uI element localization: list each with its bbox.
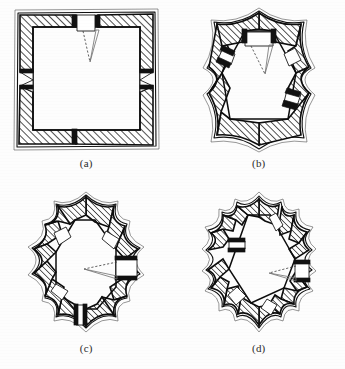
jamb-block-west-upper-d bbox=[228, 238, 245, 242]
figure-caption-a: (a) bbox=[80, 158, 93, 169]
gate-void-east-d bbox=[295, 263, 309, 279]
figure-panel-b: (b) bbox=[173, 0, 345, 185]
courtyard-outline-a bbox=[33, 27, 140, 130]
wall-mass-south-west-b bbox=[217, 112, 259, 145]
jamb-block-top-right-b bbox=[271, 29, 276, 43]
wall-mass-top-left-a bbox=[20, 15, 76, 72]
figure-panel-d: (d) bbox=[173, 185, 345, 369]
jamb-block-right-lower-a bbox=[140, 85, 153, 89]
jamb-block-top-left-b bbox=[242, 29, 247, 43]
jamb-block-left-upper-a bbox=[20, 69, 33, 73]
figure-caption-d: (d) bbox=[252, 343, 265, 354]
gate-void-top-a bbox=[77, 15, 95, 31]
plan-svg-d bbox=[183, 187, 335, 339]
figure-panel-c: (c) bbox=[0, 185, 173, 369]
figure-panel-a: (a) bbox=[0, 0, 173, 185]
sight-line-solid-a bbox=[90, 30, 99, 62]
sight-line-dashed-d bbox=[269, 266, 296, 273]
plan-drawing-c bbox=[0, 185, 173, 341]
sight-line-dashed-b bbox=[251, 46, 265, 74]
jamb-block-bottom-a bbox=[72, 129, 77, 144]
gate-void-east-c bbox=[116, 259, 137, 277]
jamb-block-left-lower-a bbox=[20, 85, 33, 89]
jamb-block-right-upper-a bbox=[140, 69, 153, 73]
jamb-block-top-right-a bbox=[95, 15, 100, 27]
plan-svg-c bbox=[10, 187, 162, 339]
figure-caption-c: (c) bbox=[80, 343, 93, 354]
figure-plate: (a) bbox=[0, 0, 345, 369]
wall-mass-left-lower-a bbox=[19, 86, 76, 144]
wall-mass-top-right-a bbox=[98, 14, 153, 72]
jamb-block-south-right-c bbox=[83, 304, 87, 325]
sight-line-dashed-a bbox=[83, 31, 90, 62]
jamb-block-top-left-a bbox=[72, 15, 77, 27]
sight-line-solid-d bbox=[269, 273, 296, 281]
outer-wall-a bbox=[17, 12, 156, 147]
jamb-block-west-lower-d bbox=[228, 248, 245, 252]
plan-drawing-d bbox=[173, 185, 345, 341]
sight-line-dashed-c bbox=[84, 262, 117, 269]
wall-mass-bottom-right-a bbox=[76, 86, 153, 145]
sight-line-solid-b bbox=[265, 45, 273, 74]
jamb-block-south-left-c bbox=[74, 304, 78, 325]
plan-drawing-b bbox=[173, 0, 345, 156]
plan-drawing-a bbox=[0, 0, 173, 156]
jamb-block-east-lower-c bbox=[115, 276, 137, 280]
plan-svg-a bbox=[6, 2, 166, 154]
gate-void-top-b bbox=[245, 32, 273, 46]
plan-svg-b bbox=[183, 2, 335, 154]
jamb-block-east-upper-c bbox=[115, 256, 137, 260]
sight-line-solid-c bbox=[84, 269, 117, 279]
figure-caption-b: (b) bbox=[252, 158, 265, 169]
jamb-block-east-upper-d bbox=[294, 260, 310, 264]
